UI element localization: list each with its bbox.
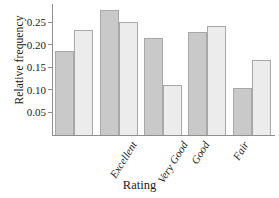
y-axis-tick-mark: [48, 89, 52, 90]
relative-frequency-bar-chart: Relative frequency 0.050.100.150.200.25 …: [0, 0, 279, 198]
y-axis-tick: 0.25: [27, 16, 52, 28]
bar: [207, 26, 226, 135]
bar: [188, 32, 207, 135]
bar: [119, 22, 138, 135]
x-axis-tick-label: Good: [188, 139, 211, 166]
y-axis-tick-mark: [48, 112, 52, 113]
x-axis-tick-label: Fair: [231, 139, 252, 162]
y-axis-tick: 0.15: [27, 61, 52, 73]
x-axis-tick-label: Poor: [276, 139, 279, 164]
y-axis-tick-label: 0.05: [27, 106, 48, 118]
y-axis-tick-label: 0.15: [27, 61, 48, 73]
bar: [233, 88, 252, 135]
y-axis-tick-mark: [48, 22, 52, 23]
bar-group: [188, 4, 226, 135]
y-axis-tick: 0.20: [27, 39, 52, 51]
bar: [55, 51, 74, 135]
y-axis-tick-label: 0.25: [27, 16, 48, 28]
bar-group: [100, 4, 138, 135]
bar: [144, 38, 163, 135]
x-axis-title: Rating: [0, 178, 279, 193]
bar: [100, 10, 119, 135]
y-axis-tick-mark: [48, 44, 52, 45]
y-axis-tick: 0.10: [27, 84, 52, 96]
bar-group: [233, 4, 271, 135]
y-axis-title: Relative frequency: [13, 0, 25, 125]
y-axis-tick: 0.05: [27, 106, 52, 118]
x-axis-line: [52, 135, 275, 136]
bar: [163, 85, 182, 135]
plot-area: 0.050.100.150.200.25: [52, 4, 274, 135]
y-axis-tick-label: 0.10: [27, 84, 48, 96]
bar-group: [55, 4, 93, 135]
bar-group: [144, 4, 182, 135]
bar: [252, 60, 271, 135]
y-axis-tick-label: 0.20: [27, 39, 48, 51]
bar: [74, 30, 93, 135]
y-axis-tick-mark: [48, 67, 52, 68]
x-axis-tick-label: Excellent: [107, 139, 139, 180]
